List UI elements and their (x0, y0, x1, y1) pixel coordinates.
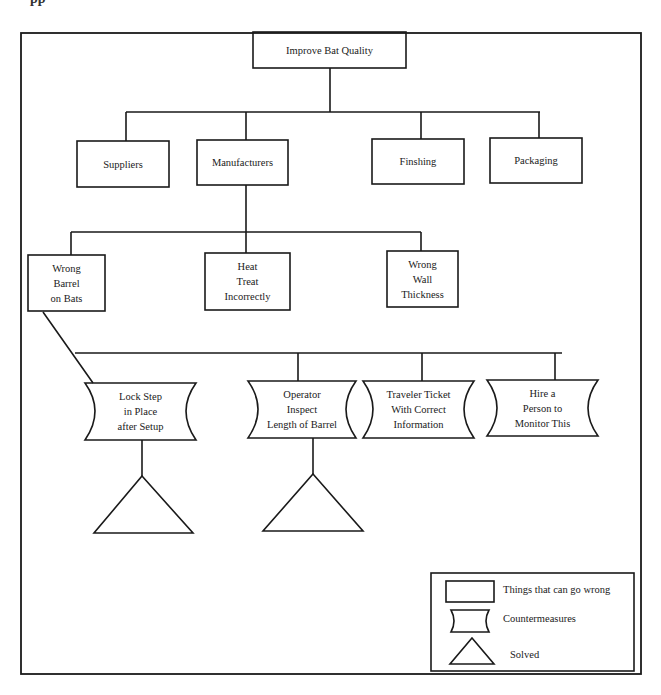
packaging-text: Packaging (514, 153, 558, 168)
connector-wrong-barrel (43, 312, 562, 383)
connector-manufacturers (71, 185, 421, 255)
legend-rectangle-icon (446, 581, 494, 602)
label-line: Length of Barrel (267, 417, 337, 432)
hire-person-label: Hire a Person to Monitor This (487, 380, 598, 436)
label-line: Information (393, 417, 443, 432)
traveler-ticket-label: Traveler Ticket With Correct Information (363, 381, 474, 438)
label-line: Wrong (408, 257, 437, 272)
root-label: Improve Bat Quality (253, 32, 406, 68)
label-line: Wall (413, 272, 433, 287)
suppliers-text: Suppliers (103, 157, 143, 172)
label-line: Lock Step (119, 389, 162, 404)
manufacturers-label: Manufacturers (197, 140, 288, 185)
legend-triangle-icon (450, 638, 494, 664)
operator-inspect-label: Operator Inspect Length of Barrel (248, 381, 356, 438)
solved-triangle-icon (94, 476, 193, 533)
label-line: Inspect (287, 402, 317, 417)
label-line: Heat (238, 259, 258, 274)
manufacturers-text: Manufacturers (212, 155, 273, 170)
label-line: on Bats (51, 291, 83, 306)
finishing-label: Finshing (372, 139, 464, 184)
legend-label-things-wrong: Things that can go wrong (503, 584, 610, 595)
connector-root (126, 68, 540, 141)
packaging-label: Packaging (490, 138, 582, 183)
label-line: after Setup (118, 419, 164, 434)
lock-step-label: Lock Step in Place after Setup (85, 383, 196, 440)
label-line: Treat (237, 274, 259, 289)
label-line: Thickness (401, 287, 444, 302)
label-line: Operator (283, 387, 320, 402)
legend-label-countermeasures: Countermeasures (503, 613, 576, 624)
label-line: Incorrectly (224, 289, 270, 304)
heat-treat-label: Heat Treat Incorrectly (205, 253, 290, 310)
wrong-barrel-label: Wrong Barrel on Bats (28, 255, 105, 311)
label-line: Monitor This (515, 416, 571, 431)
legend-countermeasure-icon (451, 610, 489, 632)
suppliers-label: Suppliers (77, 141, 169, 187)
label-line: With Correct (391, 402, 446, 417)
finishing-text: Finshing (400, 154, 437, 169)
root-text: Improve Bat Quality (286, 43, 373, 58)
label-line: Barrel (53, 276, 79, 291)
label-line: Hire a (530, 386, 556, 401)
solved-triangle-icon (263, 474, 363, 531)
label-line: Person to (523, 401, 562, 416)
legend-label-solved: Solved (510, 649, 539, 660)
label-line: Wrong (52, 261, 81, 276)
label-line: in Place (124, 404, 158, 419)
label-line: Traveler Ticket (386, 387, 450, 402)
wall-thickness-label: Wrong Wall Thickness (387, 251, 458, 307)
